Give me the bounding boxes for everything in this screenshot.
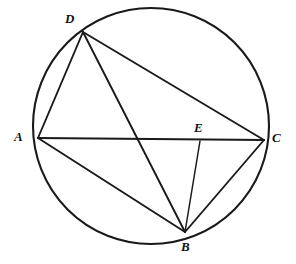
chord-AC [38, 138, 264, 140]
circumscribed-circle [33, 8, 269, 244]
vertex-label-B: B [181, 240, 190, 253]
vertex-label-D: D [65, 12, 74, 25]
geometry-figure: A B C D E [0, 0, 296, 264]
geometry-canvas [0, 0, 296, 264]
vertex-label-A: A [14, 130, 23, 143]
vertex-label-E: E [194, 121, 203, 134]
vertex-label-C: C [272, 131, 281, 144]
chord-AD [38, 32, 83, 138]
chord-AB [38, 138, 185, 232]
